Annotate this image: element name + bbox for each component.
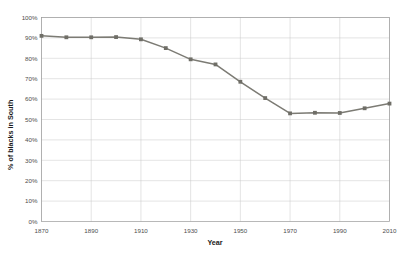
data-point-marker [288,111,292,115]
data-series-line [42,36,390,114]
gridlines [42,18,390,222]
x-axis-tick-label: 2010 [383,227,397,234]
y-axis-tick-label: 0% [29,218,38,225]
x-axis-tick-label: 1910 [134,227,148,234]
data-point-marker [114,35,118,39]
chart-canvas: 0%10%20%30%40%50%60%70%80%90%100% 187018… [0,0,401,258]
data-point-marker [313,111,317,115]
data-point-marker [263,96,267,100]
y-axis-tick-label: 20% [25,177,38,184]
data-point-marker [338,111,342,115]
data-series-markers [40,34,392,115]
data-point-marker [40,34,44,38]
y-axis-tick-label: 40% [25,136,38,143]
line-chart-figure: 0%10%20%30%40%50%60%70%80%90%100% 187018… [0,0,401,258]
y-axis-tick-label: 10% [25,197,38,204]
x-axis-tick-label: 1890 [84,227,98,234]
x-axis-title: Year [207,238,222,247]
x-axis-tick-labels: 18701890191019301950197019902010 [35,227,397,234]
data-point-marker [238,80,242,84]
y-axis-tick-label: 70% [25,75,38,82]
y-axis-tick-labels: 0%10%20%30%40%50%60%70%80%90%100% [22,14,38,225]
data-point-marker [189,57,193,61]
y-axis-tick-label: 30% [25,157,38,164]
x-axis-tick-label: 1870 [35,227,49,234]
data-point-marker [214,63,218,67]
y-axis-tick-label: 60% [25,95,38,102]
x-axis-tick-label: 1990 [333,227,347,234]
data-point-marker [388,102,392,106]
data-point-marker [139,37,143,41]
y-axis-tick-label: 90% [25,34,38,41]
data-point-marker [89,35,93,39]
x-axis-tick-label: 1950 [233,227,247,234]
x-axis-tick-label: 1930 [184,227,198,234]
data-point-marker [164,46,168,50]
y-axis-tick-label: 80% [25,55,38,62]
y-axis-title: % of blacks in South [6,100,15,170]
y-axis-tick-label: 50% [25,116,38,123]
x-axis-tick-label: 1970 [283,227,297,234]
y-axis-tick-label: 100% [22,14,38,21]
data-point-marker [363,106,367,110]
data-point-marker [64,35,68,39]
